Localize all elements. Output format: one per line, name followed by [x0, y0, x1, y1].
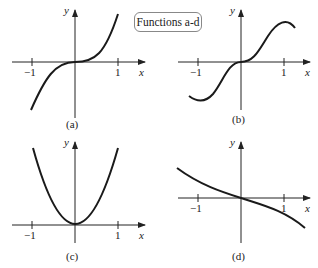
tick-label-1-d: 1 [281, 202, 287, 214]
tick-label-neg1-d: −1 [190, 202, 202, 214]
tick-label-neg1-a: −1 [24, 66, 36, 78]
caption-c: (c) [66, 250, 78, 262]
function-graphs [0, 0, 318, 268]
panel-a [12, 10, 145, 118]
caption-b: (b) [232, 113, 245, 125]
x-label-c: x [139, 229, 144, 241]
y-label-a: y [64, 4, 69, 16]
title-box: Functions a-d [134, 12, 202, 32]
y-label-b: y [230, 4, 235, 16]
panel-c [12, 142, 145, 243]
caption-d: (d) [232, 250, 245, 262]
tick-label-1-b: 1 [281, 66, 287, 78]
x-label-a: x [139, 66, 144, 78]
x-label-d: x [305, 202, 310, 214]
tick-label-neg1-b: −1 [190, 66, 202, 78]
x-label-b: x [305, 66, 310, 78]
panel-d [177, 142, 310, 243]
y-label-c: y [64, 136, 69, 148]
y-label-d: y [230, 136, 235, 148]
tick-label-neg1-c: −1 [24, 229, 36, 241]
caption-a: (a) [66, 118, 78, 130]
curve-b [189, 22, 295, 101]
tick-label-1-c: 1 [115, 229, 121, 241]
tick-label-1-a: 1 [115, 66, 121, 78]
